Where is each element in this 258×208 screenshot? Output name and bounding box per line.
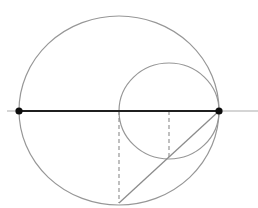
diagram-stage [0, 0, 258, 208]
right-endpoint-dot [215, 107, 222, 114]
chord-line [119, 111, 219, 203]
geometry-diagram [0, 0, 258, 208]
left-endpoint-dot [15, 107, 22, 114]
